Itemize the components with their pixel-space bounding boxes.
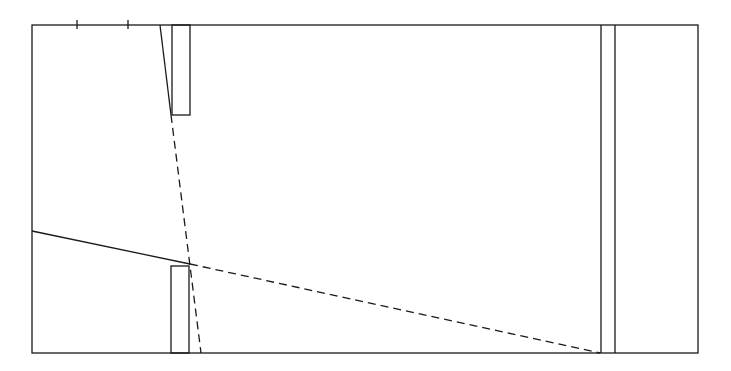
frame <box>32 25 698 353</box>
top-slit <box>172 25 190 115</box>
dashed-ray <box>171 115 201 353</box>
slit-diagram <box>0 0 731 371</box>
bottom-slit <box>171 266 189 353</box>
top-slit-edge <box>160 25 171 115</box>
dashed-ray <box>190 264 600 353</box>
incident-ray <box>32 231 190 264</box>
